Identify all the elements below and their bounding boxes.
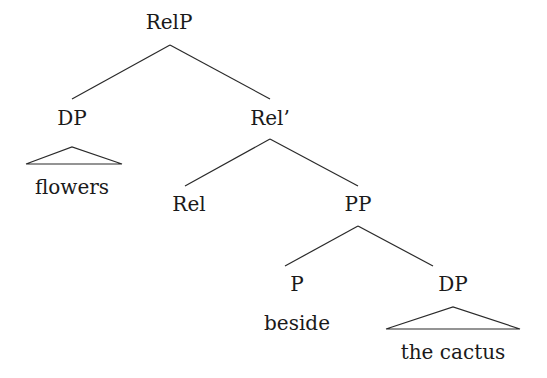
node-rel-bar: Rel’ [250, 108, 290, 128]
branch-relp-relbar [170, 45, 270, 99]
node-p: P [290, 274, 303, 294]
node-dp-the-cactus: DP [438, 274, 468, 294]
syntax-tree: RelP DP flowers Rel’ Rel PP P beside DP … [0, 0, 547, 378]
branch-pp-p [285, 226, 358, 266]
node-rel: Rel [172, 194, 205, 214]
node-dp-flowers: DP [57, 108, 87, 128]
node-relp: RelP [146, 12, 193, 32]
terminal-beside: beside [264, 313, 330, 333]
branch-relp-dp [72, 45, 170, 99]
node-pp: PP [345, 194, 372, 214]
branch-relbar-pp [270, 139, 358, 186]
branch-relbar-rel [185, 139, 270, 186]
branch-pp-dp [358, 226, 433, 266]
dp-triangle-the-cactus [386, 307, 520, 329]
dp-triangle-flowers [26, 147, 122, 164]
terminal-flowers: flowers [35, 177, 109, 197]
terminal-the-cactus: the cactus [401, 342, 506, 362]
